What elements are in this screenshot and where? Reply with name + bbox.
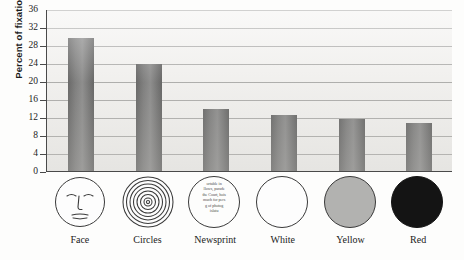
category-label: Red [386,234,450,245]
category-label: Yellow [319,234,383,245]
gridline [47,28,452,29]
yellow-disc-icon [324,176,378,230]
category-circles: Circles [116,176,180,245]
category-yellow: Yellow [319,176,383,245]
y-tick-mark [40,172,46,173]
bar-white [271,115,297,171]
plot-area [46,10,452,172]
white-disc-icon [256,176,310,230]
y-tick-label: 4 [4,148,38,158]
category-white: White [251,176,315,245]
bar-red [406,123,432,171]
concentric-circles-icon [121,176,175,230]
category-face: Face [48,176,112,245]
red-disc-icon [391,176,445,230]
y-tick-label: 28 [4,40,38,50]
gridline [47,46,452,47]
gridline [47,154,452,155]
bar-yellow [339,119,365,171]
gridline [47,100,452,101]
white-disc-icon-disc [256,176,308,228]
category-label: Face [48,234,112,245]
y-tick-label: 32 [4,22,38,32]
face-icon [53,176,107,230]
gridline [47,82,452,83]
y-tick-label: 36 [4,4,38,14]
category-label: Circles [116,234,180,245]
y-tick-label: 0 [4,166,38,176]
red-disc-icon-disc [391,176,443,228]
bar-circles [136,64,162,171]
category-newsprint: ortable inllows, paradethe Court, hoismu… [183,176,247,245]
y-tick-label: 12 [4,112,38,122]
gridline [47,118,452,119]
bar-newsprint [203,109,229,171]
gridline [47,136,452,137]
plot-shading [47,10,452,171]
y-axis-title: Percent of fixation time [13,0,27,105]
category-label: Newsprint [183,234,247,245]
gridline [47,64,452,65]
bar-chart-figure: Percent of fixation time 363228242016128… [0,0,464,260]
newsprint-icon: ortable inllows, paradethe Court, hoismu… [188,176,242,230]
category-label: White [251,234,315,245]
y-tick-label: 20 [4,76,38,86]
yellow-disc-icon-disc [324,176,376,228]
y-tick-label: 16 [4,94,38,104]
category-red: Red [386,176,450,245]
bar-face [68,38,94,171]
y-tick-label: 24 [4,58,38,68]
gridline [47,10,452,11]
category-icons: FaceCirclesortable inllows, paradethe Co… [46,176,452,256]
newsprint-text: ortable inllows, paradethe Court, hoismu… [188,176,240,228]
y-tick-label: 8 [4,130,38,140]
